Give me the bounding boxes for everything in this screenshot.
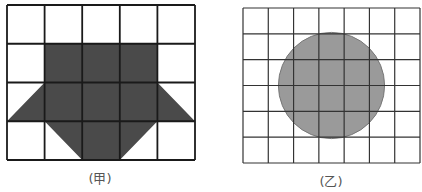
figure-yi-caption: (乙) bbox=[319, 171, 342, 190]
figure-jia bbox=[7, 5, 195, 160]
figure-jia-caption: (甲) bbox=[88, 168, 111, 187]
figure-yi bbox=[243, 8, 420, 163]
diagram-canvas bbox=[0, 0, 422, 192]
shaded-polygon bbox=[7, 44, 195, 160]
